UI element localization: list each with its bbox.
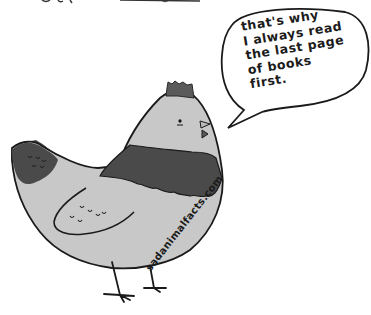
- chicken-comb: [166, 81, 194, 98]
- cropped-caption-fragment: [42, 0, 200, 3]
- comic-panel: that's why I always read the last page o…: [0, 0, 371, 315]
